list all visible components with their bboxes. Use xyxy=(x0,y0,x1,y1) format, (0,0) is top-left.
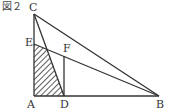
figure-title: 図２ xyxy=(2,1,22,12)
label-f: F xyxy=(63,42,71,55)
geometry-figure: 図２ C E F A D B xyxy=(0,0,178,112)
label-c: C xyxy=(29,1,37,14)
label-d: D xyxy=(60,98,69,111)
label-b: B xyxy=(156,98,164,111)
label-e: E xyxy=(25,36,33,49)
shaded-region xyxy=(34,44,64,96)
label-a: A xyxy=(26,98,36,111)
